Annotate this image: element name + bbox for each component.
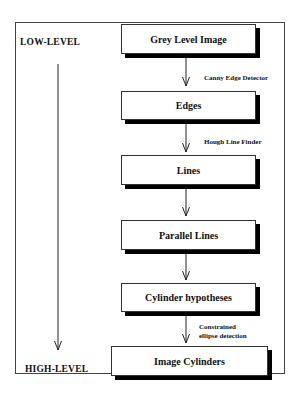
flow-arrow-icon <box>183 254 190 280</box>
node-label: Grey Level Image <box>150 34 226 45</box>
node-label: Edges <box>176 100 202 111</box>
node-parallel-lines: Parallel Lines <box>121 220 256 250</box>
flow-arrow-icon <box>183 58 190 86</box>
flow-arrow-icon <box>183 316 190 343</box>
node-edges: Edges <box>121 91 256 120</box>
node-grey-level-image: Grey Level Image <box>121 24 256 54</box>
node-lines: Lines <box>121 155 256 185</box>
flow-arrow-icon <box>183 124 190 152</box>
edge-label-hough: Hough Line Finder <box>204 138 262 147</box>
edge-label-line2: ellipse detection <box>199 332 247 341</box>
edge-label-canny: Canny Edge Detector <box>204 74 268 83</box>
level-axis-arrow-icon <box>55 64 62 350</box>
edge-label-constrained-ellipse: Constrained ellipse detection <box>199 323 247 340</box>
node-label: Cylinder hypotheses <box>145 292 232 303</box>
node-cylinder-hypotheses: Cylinder hypotheses <box>121 283 256 312</box>
edge-label-line1: Constrained <box>199 323 247 332</box>
flow-arrow-icon <box>183 189 190 216</box>
node-label: Parallel Lines <box>159 230 218 241</box>
arrows-layer <box>0 0 299 402</box>
node-label: Image Cylinders <box>154 356 225 367</box>
node-image-cylinders: Image Cylinders <box>111 346 268 376</box>
node-label: Lines <box>177 165 200 176</box>
